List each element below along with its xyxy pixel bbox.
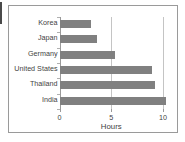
bar-united-states[interactable] <box>60 66 152 74</box>
category-slot: Thailand <box>0 78 58 93</box>
plot-area: Korea Japan Germany United States Thaila… <box>60 17 164 109</box>
category-label-germany: Germany <box>0 50 58 58</box>
category-slot: Germany <box>0 48 58 63</box>
bar-row <box>60 32 164 47</box>
xtick-10 <box>163 109 164 112</box>
gridline-10 <box>163 17 164 109</box>
xtick-0 <box>60 109 61 112</box>
x-axis-title: Hours <box>60 122 164 131</box>
category-slot: Japan <box>0 32 58 47</box>
category-label-japan: Japan <box>0 34 58 42</box>
category-slot: United States <box>0 63 58 78</box>
xtick-5 <box>111 109 112 112</box>
bar-japan[interactable] <box>60 35 97 43</box>
bar-row <box>60 48 164 63</box>
value-axis: 0 5 10 <box>60 109 164 113</box>
category-slot: Korea <box>0 17 58 32</box>
xtick-label-0: 0 <box>58 113 62 122</box>
category-label-korea: Korea <box>0 19 58 27</box>
category-label-india: India <box>0 96 58 104</box>
bar-thailand[interactable] <box>60 81 155 89</box>
category-slot: India <box>0 94 58 109</box>
category-label-united-states: United States <box>0 65 58 73</box>
bar-row <box>60 94 164 109</box>
category-axis-labels: Korea Japan Germany United States Thaila… <box>0 17 58 109</box>
chart-frame: Korea Japan Germany United States Thaila… <box>8 5 178 133</box>
bar-row <box>60 63 164 78</box>
bar-row <box>60 78 164 93</box>
bar-india[interactable] <box>60 97 167 105</box>
bar-germany[interactable] <box>60 51 116 59</box>
bar-korea[interactable] <box>60 20 91 28</box>
bar-row <box>60 17 164 32</box>
bar-series <box>60 17 164 109</box>
xtick-label-5: 5 <box>109 113 113 122</box>
xtick-label-10: 10 <box>159 113 167 122</box>
category-label-thailand: Thailand <box>0 80 58 88</box>
